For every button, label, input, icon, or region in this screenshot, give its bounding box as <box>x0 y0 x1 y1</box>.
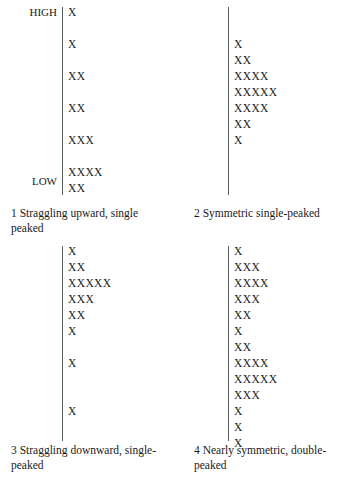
mark-row: X <box>234 419 278 435</box>
mark-row: XX <box>234 339 278 355</box>
panel-1-caption: 1 Straggling upward, single peaked <box>11 206 161 236</box>
mark-row: XX <box>68 68 103 84</box>
mark-row: XX <box>68 307 112 323</box>
mark-row: X <box>68 323 112 339</box>
panel-4-mark-stack: XXXXXXXXXXXXXXXXXXXXXXXXXXXXXXX <box>234 243 278 451</box>
panel-3-caption: 3 Straggling downward, single-peaked <box>11 443 161 473</box>
mark-row: XXX <box>234 387 278 403</box>
mark-row: XXXX <box>234 100 278 116</box>
mark-row: XXXXX <box>234 371 278 387</box>
mark-row: XXX <box>234 291 278 307</box>
distribution-shapes-figure: HIGH LOW X X XX XX XXX XXXXXX 1 Straggli… <box>0 0 355 492</box>
mark-row: XXXXX <box>68 275 112 291</box>
axis-label-low: LOW <box>32 173 57 189</box>
panel-2-caption: 2 Symmetric single-peaked <box>194 206 355 221</box>
panel-4-caption: 4 Nearly symmetric, double-peaked <box>194 443 354 473</box>
mark-row: X <box>234 243 278 259</box>
panel-4-axis-line <box>228 246 229 441</box>
mark-row: X <box>68 243 112 259</box>
mark-row: XXX <box>234 259 278 275</box>
mark-row: X <box>68 36 103 52</box>
mark-row: XXXX <box>68 164 103 180</box>
mark-row: XXX <box>68 132 103 148</box>
mark-row: XXXX <box>234 355 278 371</box>
mark-row: XX <box>234 116 278 132</box>
panel-1-mark-stack: X X XX XX XXX XXXXXX <box>68 4 103 196</box>
mark-row: X <box>234 403 278 419</box>
mark-row: X <box>234 132 278 148</box>
mark-row: XXX <box>68 291 112 307</box>
mark-row: XX <box>234 52 278 68</box>
panel-3-mark-stack: XXXXXXXXXXXXXX X X <box>68 243 112 419</box>
panel-2-axis-line <box>228 7 229 195</box>
mark-row: XX <box>68 100 103 116</box>
mark-row: XX <box>234 307 278 323</box>
mark-row: XXXXX <box>234 84 278 100</box>
mark-row: XX <box>68 180 103 196</box>
mark-row: X <box>234 323 278 339</box>
panel-3-axis-line <box>62 246 63 441</box>
mark-row: X <box>234 36 278 52</box>
panel-2-mark-stack: XXXXXXXXXXXXXXXXXXX <box>234 4 278 148</box>
mark-row: X <box>68 403 112 419</box>
mark-row: X <box>68 4 103 20</box>
mark-row: XX <box>68 259 112 275</box>
mark-row: XXXX <box>234 275 278 291</box>
mark-row: X <box>68 355 112 371</box>
axis-label-high: HIGH <box>30 4 58 20</box>
panel-1-axis-line <box>62 7 63 195</box>
mark-row: XXXX <box>234 68 278 84</box>
